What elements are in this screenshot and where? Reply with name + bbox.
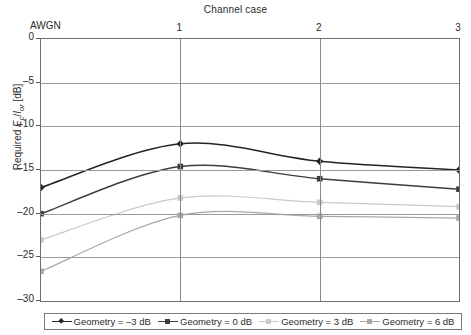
x-tick-label: 1 <box>169 22 189 33</box>
legend-marker-icon <box>360 317 380 326</box>
x-tick-label: 3 <box>448 22 468 33</box>
legend-label: Geometry = 0 dB <box>180 316 252 327</box>
chart-figure: Channel case AWGN 0–5–10–15–20–25–30 123… <box>0 0 471 335</box>
legend-item-4[interactable]: Geometry = 6 dB <box>360 316 454 327</box>
legend-marker-icon <box>259 317 279 326</box>
legend-item-2[interactable]: Geometry = 0 dB <box>158 316 252 327</box>
legend-label: Geometry = 3 dB <box>281 316 353 327</box>
legend-item-3[interactable]: Geometry = 3 dB <box>259 316 353 327</box>
legend-label: Geometry = –3 dB <box>74 316 151 327</box>
x-tick-label: 2 <box>309 22 329 33</box>
legend-marker-icon <box>158 317 178 326</box>
legend-item-1[interactable]: Geometry = –3 dB <box>52 316 151 327</box>
legend-marker-icon <box>52 317 72 326</box>
y-axis-title-text: Required Ec/Ior [dB] <box>12 84 23 171</box>
y-axis-title: Required Ec/Ior [dB] <box>12 52 26 202</box>
x-axis-ticks: 123 <box>0 0 471 335</box>
legend-label: Geometry = 6 dB <box>382 316 454 327</box>
chart-legend: Geometry = –3 dBGeometry = 0 dBGeometry … <box>44 313 462 330</box>
